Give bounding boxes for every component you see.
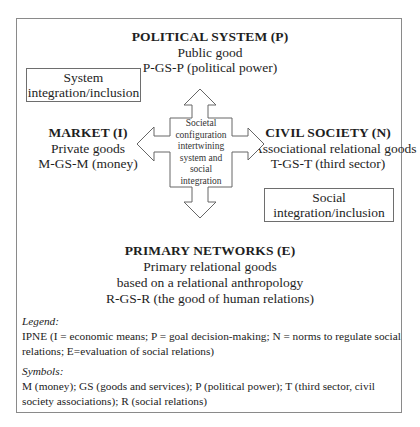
legend-label: Legend: bbox=[22, 314, 402, 329]
legend-section: Legend: IPNE (I = economic means; P = go… bbox=[22, 314, 402, 409]
primary-networks-formula: R-GS-R (the good of human relations) bbox=[100, 291, 320, 307]
social-box-line2: integration/inclusion bbox=[265, 205, 393, 220]
center-line3: intertwining bbox=[170, 141, 232, 153]
center-line4: system and bbox=[170, 153, 232, 165]
societal-configuration-label: Societal configuration intertwining syst… bbox=[170, 118, 232, 187]
center-line2: configuration bbox=[170, 130, 232, 142]
social-box-line1: Social bbox=[265, 190, 393, 205]
center-line5: social bbox=[170, 164, 232, 176]
symbols-text: M (money); GS (goods and services); P (p… bbox=[22, 379, 402, 409]
social-integration-box: Social integration/inclusion bbox=[264, 188, 394, 222]
primary-networks-block: PRIMARY NETWORKS (E) Primary relational … bbox=[100, 243, 320, 307]
primary-networks-title: PRIMARY NETWORKS (E) bbox=[100, 243, 320, 259]
center-line1: Societal bbox=[170, 118, 232, 130]
primary-networks-basis: based on a relational anthropology bbox=[100, 275, 320, 291]
legend-text: IPNE (I = economic means; P = goal decis… bbox=[22, 329, 402, 359]
center-line6: integration bbox=[170, 176, 232, 188]
symbols-label: Symbols: bbox=[22, 364, 402, 379]
primary-networks-good: Primary relational goods bbox=[100, 259, 320, 275]
